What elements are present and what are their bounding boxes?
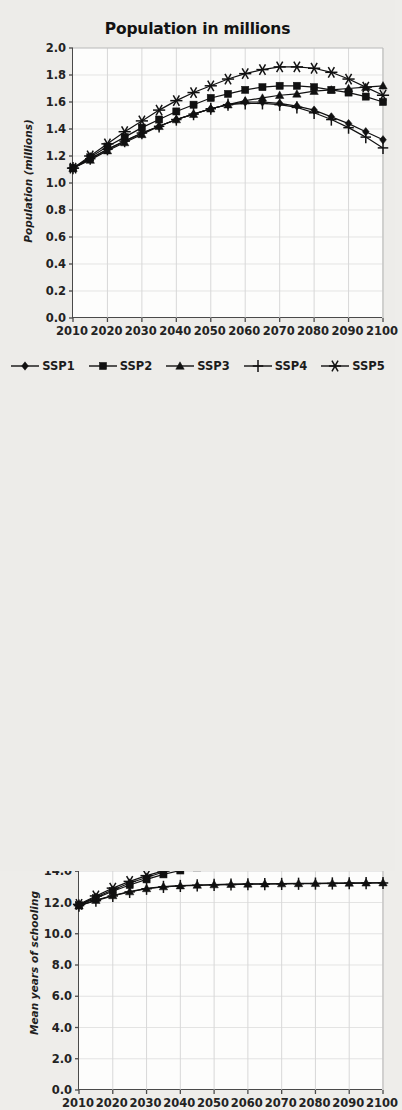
y-tick-label: 2.0 bbox=[26, 41, 66, 55]
y-tick-label: 12.0 bbox=[32, 896, 72, 910]
legend-label: SSP2 bbox=[120, 359, 152, 373]
y-tick-label: 1.6 bbox=[26, 95, 66, 109]
legend-label: SSP1 bbox=[42, 359, 74, 373]
plot-area-schooling bbox=[78, 840, 382, 1090]
legend-item-ssp1[interactable]: SSP1 bbox=[10, 357, 74, 375]
y-tick-label: 0.6 bbox=[26, 230, 66, 244]
y-tick-label: 6.0 bbox=[32, 989, 72, 1003]
plot-area-population bbox=[72, 48, 382, 318]
diamond-marker-icon bbox=[10, 357, 40, 375]
y-tick-label: 0.8 bbox=[26, 203, 66, 217]
y-tick-label: 0.4 bbox=[26, 257, 66, 271]
plus-marker-icon bbox=[243, 357, 273, 375]
legend-item-ssp3[interactable]: SSP3 bbox=[165, 357, 229, 375]
triangle-marker-icon bbox=[165, 357, 195, 375]
y-tick-label: 1.2 bbox=[26, 149, 66, 163]
y-tick-label: 0.2 bbox=[26, 284, 66, 298]
chart-title-population: Population in millions bbox=[0, 20, 395, 38]
y-tick-label: 1.8 bbox=[26, 68, 66, 82]
square-marker-icon bbox=[88, 357, 118, 375]
y-tick-label: 1.0 bbox=[26, 176, 66, 190]
x-tick-label: 2100 bbox=[362, 1096, 402, 1110]
y-tick-label: 0.0 bbox=[32, 1083, 72, 1097]
legend-label: SSP3 bbox=[197, 359, 229, 373]
legend-item-ssp5[interactable]: SSP5 bbox=[320, 357, 384, 375]
legend-label: SSP5 bbox=[352, 359, 384, 373]
plot-svg-population bbox=[73, 48, 383, 318]
y-tick-label: 0.0 bbox=[26, 311, 66, 325]
y-tick-label: 4.0 bbox=[32, 1021, 72, 1035]
chart-panel-schooling: Mean years of schooling, age 25+ Mean ye… bbox=[0, 392, 395, 760]
chart-panel-population: Population in millions Population (milli… bbox=[0, 0, 395, 392]
y-tick-label: 2.0 bbox=[32, 1052, 72, 1066]
x-tick-label: 2100 bbox=[362, 324, 402, 338]
legend-item-ssp4[interactable]: SSP4 bbox=[243, 357, 307, 375]
chart-panel-aging: Proportion age 65+ 0.60.7 bbox=[0, 760, 395, 871]
legend-label: SSP4 bbox=[275, 359, 307, 373]
asterisk-marker-icon bbox=[320, 357, 350, 375]
y-tick-label: 1.4 bbox=[26, 122, 66, 136]
chart-legend: SSP1SSP2SSP3SSP4SSP5 bbox=[0, 355, 395, 377]
y-tick-label: 10.0 bbox=[32, 927, 72, 941]
y-tick-label: 8.0 bbox=[32, 958, 72, 972]
plot-svg-schooling bbox=[79, 840, 383, 1090]
legend-item-ssp2[interactable]: SSP2 bbox=[88, 357, 152, 375]
